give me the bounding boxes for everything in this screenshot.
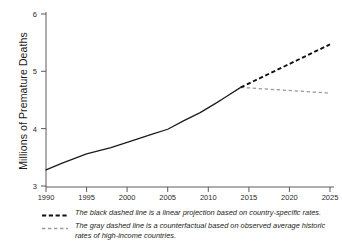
y-tick-label-5: 5 bbox=[33, 67, 37, 76]
series-counterfactual-line bbox=[241, 87, 330, 93]
series-projection-line bbox=[241, 44, 330, 87]
x-tick-label-2015: 2015 bbox=[241, 193, 258, 202]
y-tick-label-6: 6 bbox=[33, 10, 37, 19]
legend-entry-gray-dashed: The gray dashed line is a counterfactual… bbox=[42, 221, 340, 240]
x-tick-label-2025: 2025 bbox=[322, 193, 339, 202]
x-tick-label-1995: 1995 bbox=[78, 193, 95, 202]
legend-entry-black-dashed: The black dashed line is a linear projec… bbox=[42, 208, 340, 220]
legend-label-gray-dashed: The gray dashed line is a counterfactual… bbox=[75, 221, 340, 240]
x-tick-label-1990: 1990 bbox=[38, 193, 55, 202]
black-dashed-line-swatch-icon bbox=[42, 211, 68, 220]
chart-legend: The black dashed line is a linear projec… bbox=[42, 208, 340, 241]
legend-label-black-dashed: The black dashed line is a linear projec… bbox=[75, 208, 321, 218]
x-axis: 1990 1995 2000 2005 2010 2015 2020 2025 bbox=[38, 187, 339, 202]
x-tick-label-2005: 2005 bbox=[159, 193, 176, 202]
x-tick-label-2000: 2000 bbox=[119, 193, 136, 202]
x-tick-label-2020: 2020 bbox=[281, 193, 298, 202]
gray-dashed-line-swatch-icon bbox=[42, 224, 68, 233]
series-observed-line bbox=[46, 87, 241, 170]
x-tick-label-2010: 2010 bbox=[200, 193, 217, 202]
chart-container: Millions of Premature Deaths 6 5 4 3 199… bbox=[0, 0, 342, 251]
y-tick-label-3: 3 bbox=[33, 182, 37, 191]
y-axis: 6 5 4 3 bbox=[33, 10, 46, 191]
y-tick-label-4: 4 bbox=[33, 125, 37, 134]
